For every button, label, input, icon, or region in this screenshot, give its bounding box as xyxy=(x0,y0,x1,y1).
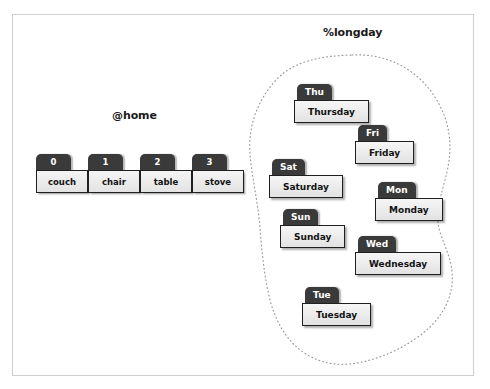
hash-key-mon: Mon xyxy=(378,182,416,198)
array-section-title: @home xyxy=(112,109,157,122)
hash-key-sun: Sun xyxy=(283,209,318,225)
hash-value-mon[interactable]: Monday xyxy=(375,198,443,221)
array-index-2: 2 xyxy=(140,154,175,170)
hash-section-title: %longday xyxy=(323,26,382,39)
hash-key-fri: Fri xyxy=(358,125,387,141)
array-cell-1[interactable]: chair xyxy=(88,170,140,193)
array-cell-3[interactable]: stove xyxy=(192,170,244,193)
hash-value-fri[interactable]: Friday xyxy=(355,141,414,164)
hash-value-wed[interactable]: Wednesday xyxy=(355,252,441,275)
array-index-3: 3 xyxy=(192,154,227,170)
hash-value-thu[interactable]: Thursday xyxy=(294,100,369,123)
array-index-1: 1 xyxy=(88,154,123,170)
diagram-canvas: @home 0 couch 1 chair 2 table 3 stove %l… xyxy=(0,0,490,389)
hash-key-sat: Sat xyxy=(272,159,305,175)
hash-key-tue: Tue xyxy=(305,287,339,303)
hash-key-wed: Wed xyxy=(358,236,396,252)
array-cell-2[interactable]: table xyxy=(140,170,192,193)
hash-value-sun[interactable]: Sunday xyxy=(280,225,345,248)
hash-value-sat[interactable]: Saturday xyxy=(269,175,343,198)
hash-key-thu: Thu xyxy=(297,84,332,100)
hash-value-tue[interactable]: Tuesday xyxy=(302,303,371,326)
array-index-0: 0 xyxy=(36,154,71,170)
array-cell-0[interactable]: couch xyxy=(36,170,88,193)
